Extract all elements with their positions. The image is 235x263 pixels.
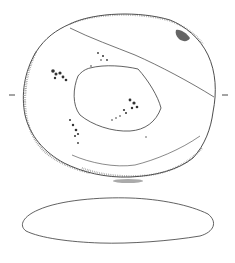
lower-edge-line xyxy=(72,136,200,166)
rim-shading xyxy=(25,52,90,173)
pitting-marks xyxy=(51,52,147,144)
central-depression xyxy=(74,66,161,131)
stone-drawing xyxy=(0,0,235,263)
profile-view xyxy=(22,198,213,243)
fracture-line xyxy=(70,28,214,97)
knob-shade xyxy=(176,30,190,41)
plan-view xyxy=(23,14,215,177)
base-shadow xyxy=(113,179,143,183)
rim-shading-bottom xyxy=(82,148,202,176)
